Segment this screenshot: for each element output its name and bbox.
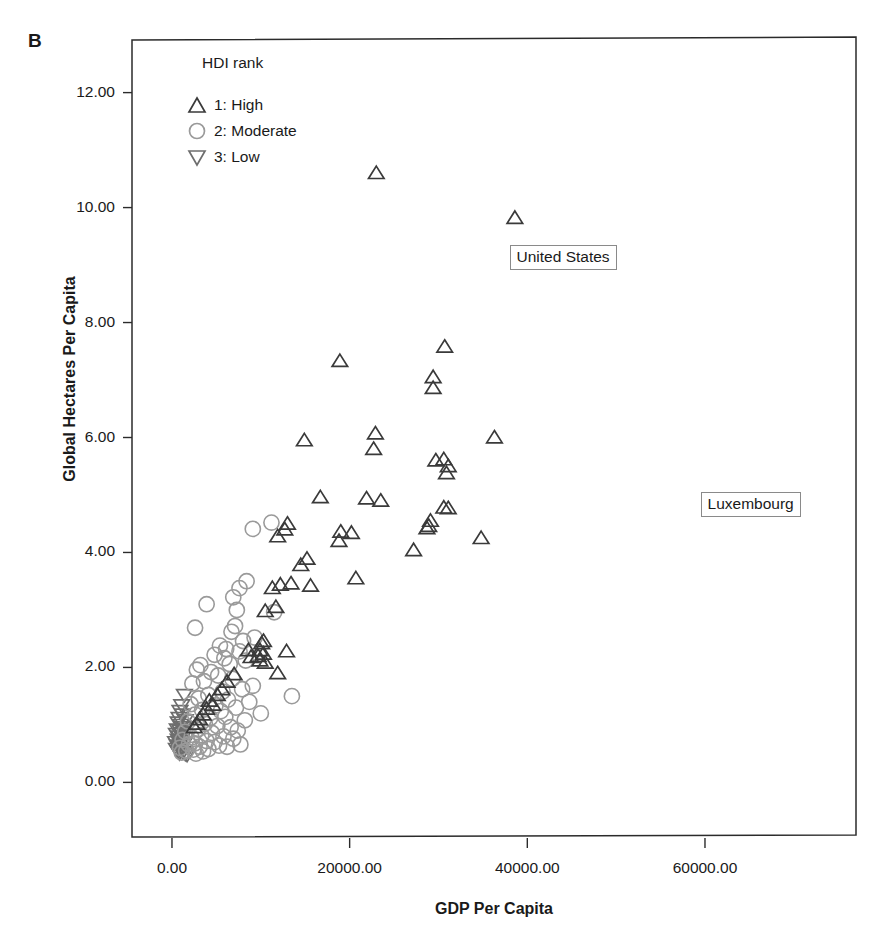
y-tick-label: 10.00 — [27, 198, 115, 216]
circle-icon — [186, 120, 210, 142]
legend-item-low: 3: Low — [186, 144, 297, 170]
data-point-triangle-up — [313, 490, 329, 502]
legend-title: HDI rank — [202, 54, 297, 72]
data-point-circle — [227, 618, 242, 633]
data-point-triangle-up — [473, 531, 489, 543]
series-triangle-up — [186, 166, 522, 732]
x-tick-label: 0.00 — [102, 859, 242, 877]
x-tick-label: 20000.00 — [280, 859, 420, 877]
x-tick-label: 60000.00 — [635, 859, 775, 877]
legend-label-low: 3: Low — [214, 148, 260, 166]
data-point-triangle-up — [487, 431, 503, 443]
legend: HDI rank 1: High 2: Moderate 3: Low — [186, 54, 297, 170]
data-point-triangle-up — [359, 491, 375, 503]
legend-label-moderate: 2: Moderate — [214, 122, 297, 140]
data-point-circle — [187, 620, 202, 635]
data-point-circle — [245, 678, 260, 693]
y-tick-label: 6.00 — [27, 428, 115, 446]
legend-item-moderate: 2: Moderate — [186, 118, 297, 144]
data-point-circle — [284, 689, 299, 704]
y-tick-label: 0.00 — [27, 772, 115, 790]
data-point-circle — [207, 647, 222, 662]
data-point-triangle-up — [279, 644, 295, 656]
data-point-triangle-up — [369, 166, 385, 178]
y-tick-label: 12.00 — [27, 83, 115, 101]
legend-item-high: 1: High — [186, 92, 297, 118]
data-point-triangle-up — [368, 427, 384, 439]
data-point-circle — [189, 662, 204, 677]
legend-label-high: 1: High — [214, 96, 263, 114]
data-point-circle — [264, 515, 279, 530]
data-point-circle — [237, 713, 252, 728]
figure-panel: B Global Hectares Per Capita GDP Per Cap… — [0, 0, 874, 935]
data-point-triangle-up — [366, 442, 382, 454]
triangle-up-icon — [186, 94, 210, 116]
x-tick-label: 40000.00 — [457, 859, 597, 877]
data-point-circle — [253, 706, 268, 721]
data-point-triangle-up — [332, 354, 348, 366]
data-point-circle — [193, 658, 208, 673]
data-point-triangle-up — [406, 543, 422, 555]
triangle-down-icon — [186, 146, 210, 168]
data-point-triangle-up — [297, 433, 313, 445]
scatter-plot — [0, 0, 874, 935]
data-point-triangle-up — [348, 571, 364, 583]
y-tick-label: 4.00 — [27, 542, 115, 560]
data-point-circle — [199, 597, 214, 612]
y-tick-label: 8.00 — [27, 313, 115, 331]
data-point-triangle-up — [437, 340, 453, 352]
data-point-circle — [245, 521, 260, 536]
annotation-label: United States — [510, 245, 617, 270]
annotation-label: Luxembourg — [701, 492, 801, 517]
data-point-triangle-up — [507, 211, 523, 223]
data-point-triangle-up — [303, 579, 319, 591]
y-tick-label: 2.00 — [27, 657, 115, 675]
